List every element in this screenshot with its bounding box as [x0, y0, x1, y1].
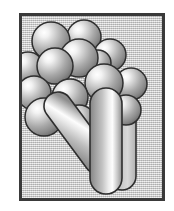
illustration-stage	[0, 0, 174, 211]
illustration-frame	[19, 13, 165, 201]
